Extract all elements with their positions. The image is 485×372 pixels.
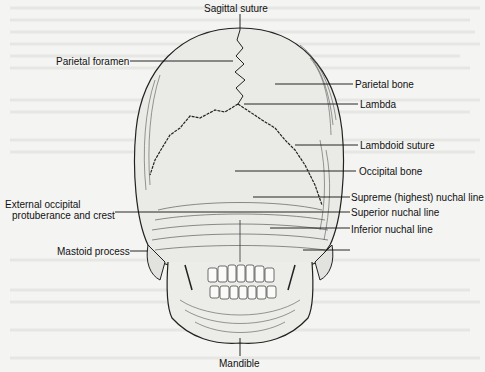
label-sagittal-suture: Sagittal suture xyxy=(204,3,268,14)
label-mastoid-process: Mastoid process xyxy=(57,246,130,257)
label-mandible: Mandible xyxy=(219,358,260,369)
label-external-occipital-line2: protuberance and crest xyxy=(12,210,115,221)
cranium-outline xyxy=(135,28,344,271)
label-parietal-bone: Parietal bone xyxy=(355,79,414,90)
label-inferior-nuchal-line: Inferior nuchal line xyxy=(351,224,433,235)
label-lambda: Lambda xyxy=(360,99,396,110)
label-occipital-bone: Occipital bone xyxy=(359,166,422,177)
label-superior-nuchal-line: Superior nuchal line xyxy=(351,207,439,218)
label-supreme-nuchal-line: Supreme (highest) nuchal line xyxy=(351,192,484,203)
label-parietal-foramen: Parietal foramen xyxy=(56,56,129,67)
label-external-occipital-line1: External occipital xyxy=(5,199,81,210)
label-lambdoid-suture: Lambdoid suture xyxy=(360,140,435,151)
